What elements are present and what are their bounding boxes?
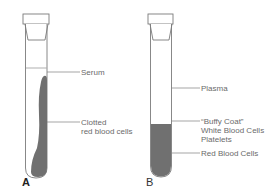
label-clotted-line1: Clotted: [81, 118, 106, 127]
tube-b-stopper: [150, 24, 172, 40]
label-platelets: Platelets: [201, 135, 232, 144]
tube-a-cap: [23, 14, 49, 24]
tube-diagram: [0, 0, 275, 188]
label-red-blood-cells: Red Blood Cells: [201, 149, 258, 158]
tube-b-red-cells: [151, 124, 171, 177]
label-buffy-coat: “Buffy Coat”: [201, 117, 244, 126]
tube-a-stopper: [25, 24, 48, 40]
tube-a-clot: [31, 76, 47, 177]
label-plasma: Plasma: [201, 84, 228, 93]
label-serum: Serum: [81, 68, 105, 77]
label-clotted-line2: red blood cells: [81, 127, 133, 136]
panel-label-b: B: [146, 176, 153, 188]
tube-b-cap: [148, 14, 173, 24]
label-white-blood-cells: White Blood Cells: [201, 126, 264, 135]
panel-label-a: A: [22, 176, 30, 188]
